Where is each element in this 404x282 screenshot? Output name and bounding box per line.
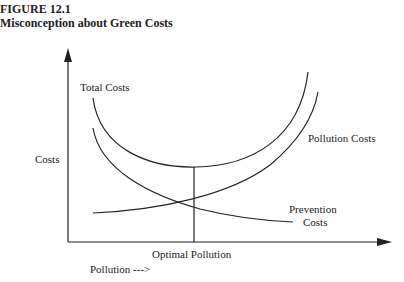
y-axis-label: Costs <box>35 153 59 165</box>
x-axis-arrow-icon <box>377 238 392 246</box>
prevention-costs-label-line1: Prevention <box>289 203 337 215</box>
prevention-costs-curve <box>93 128 293 222</box>
total-costs-label: Total Costs <box>80 81 130 93</box>
optimal-pollution-label: Optimal Pollution <box>152 248 231 260</box>
pollution-costs-curve <box>93 92 318 213</box>
y-axis-arrow-icon <box>64 48 72 62</box>
pollution-costs-label: Pollution Costs <box>308 132 376 144</box>
prevention-costs-label-line2: Costs <box>303 216 327 228</box>
x-axis-label: Pollution ---> <box>90 263 150 275</box>
